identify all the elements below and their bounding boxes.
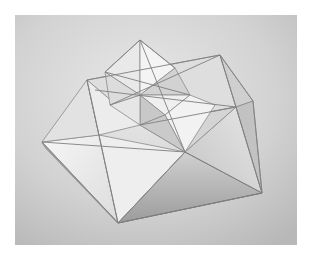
- image-frame: [0, 0, 313, 259]
- photograph: [15, 15, 297, 245]
- origami-sculpture-illustration: [15, 15, 297, 245]
